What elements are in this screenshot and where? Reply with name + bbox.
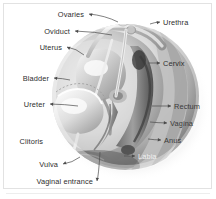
label-vulva: Vulva (0, 160, 58, 169)
label-ovaries: Ovaries (0, 10, 84, 19)
label-uterus: Uterus (0, 43, 62, 52)
label-anus: Anus (164, 136, 181, 145)
figure-page: Ovaries Oviduct Uterus Bladder Ureter Cl… (0, 0, 216, 199)
label-ureter: Ureter (0, 100, 45, 109)
label-labia: Labia (138, 152, 157, 161)
label-vaginal-entrance: Vaginal entrance (0, 177, 93, 186)
label-urethra: Urethra (163, 18, 188, 27)
label-clitoris: Clitoris (0, 137, 43, 146)
label-oviduct: Oviduct (0, 27, 70, 36)
figure-footer-rule (6, 193, 210, 194)
label-rectum: Rectum (174, 102, 200, 111)
label-cervix: Cervix (163, 59, 185, 68)
label-vagina: Vagina (170, 119, 193, 128)
label-bladder: Bladder (0, 74, 49, 83)
